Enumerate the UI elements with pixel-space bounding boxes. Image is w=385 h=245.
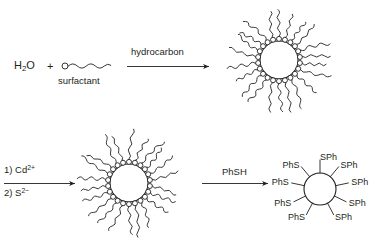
surfactant-tail	[286, 14, 293, 37]
surfactant-head-group	[282, 37, 287, 42]
surfactant-head-group	[127, 159, 132, 164]
surfactant-tail	[135, 206, 140, 237]
ligand-label: PhS	[282, 160, 299, 169]
surfactant-tail	[83, 192, 108, 200]
surfactant-tail	[269, 11, 273, 37]
ligand-bond	[292, 183, 305, 186]
ligand-label: PhS	[288, 213, 305, 222]
surfactant-head-group	[146, 172, 151, 177]
ligand-label: PhS	[272, 178, 289, 187]
ligand-label: SPh	[341, 160, 358, 169]
surfactant-tail	[153, 186, 176, 195]
reaction-scheme: H2O + surfactant hydrocarbon H2O 1) Cd2+…	[0, 0, 385, 245]
surfactant-tail	[142, 203, 150, 227]
ligand-bond	[334, 196, 346, 202]
ligand-label: PhS	[274, 199, 291, 208]
surfactant-head-group	[277, 36, 282, 41]
surfactant-tail	[242, 76, 261, 97]
surfactant-head-group	[106, 184, 111, 189]
surfactant-head-group	[132, 201, 137, 206]
surfactant-tail	[151, 193, 176, 203]
surfactant-tail	[248, 80, 266, 101]
surfactant-tail	[82, 156, 107, 173]
surfactant-head-group	[296, 49, 301, 54]
surfactant-tail	[147, 199, 168, 213]
ligand-bond	[336, 183, 349, 186]
ligand-bond	[330, 167, 338, 177]
surfactant-tail	[285, 83, 291, 112]
cd-s-arrow	[4, 181, 75, 186]
surfactant-head-group	[288, 75, 293, 80]
hydrocarbon-arrow	[127, 64, 209, 69]
surfactant-tail	[301, 70, 331, 77]
surfactant-head-group	[147, 178, 152, 183]
ligand-label: SPh	[320, 153, 337, 162]
surfactant-head-group	[256, 61, 261, 66]
surfactant-head-group	[106, 178, 111, 183]
surfactant-tail	[240, 32, 261, 44]
surfactant-head-group	[297, 61, 302, 66]
surfactant-tail	[153, 171, 178, 180]
surfactant-head-group	[282, 78, 287, 83]
surfactant-head-group	[138, 198, 143, 203]
surfactant-tail	[128, 129, 134, 159]
surfactant-head-group	[127, 202, 132, 207]
surfactant-head-group	[121, 201, 126, 206]
surfactant-tail	[112, 137, 123, 161]
surfactant-tail	[303, 63, 326, 66]
ligand-bond	[306, 203, 312, 214]
surfactant-head-group	[257, 49, 262, 54]
surfactant-tail	[301, 43, 330, 50]
surfactant-head-group	[146, 189, 151, 194]
surfactant-tail	[136, 139, 149, 160]
surfactant-head-group	[265, 75, 270, 80]
surfactant-head-group	[277, 79, 282, 84]
surfactant-head-group	[132, 160, 137, 165]
surfactant-tail	[277, 10, 280, 37]
surfactant-tail	[227, 62, 255, 68]
ligand-label: SPh	[351, 178, 368, 187]
surfactant-head-group	[288, 40, 293, 45]
surfactant-head-group	[138, 163, 143, 168]
surfactant-tail	[108, 206, 122, 231]
ligand-label: SPh	[349, 199, 366, 208]
surfactant-molecule	[62, 63, 111, 69]
surfactant-tail	[77, 177, 105, 181]
ligand-bond	[294, 196, 306, 202]
reverse-micelle-cds	[77, 129, 178, 237]
surfactant-head-group	[296, 66, 301, 71]
surfactant-head-group	[257, 66, 262, 71]
surfactant-tail	[236, 70, 257, 81]
surfactant-tail	[89, 199, 111, 216]
surfactant-tail	[87, 155, 111, 167]
ligand-bond	[301, 167, 309, 177]
surfactant-head-group	[147, 184, 152, 189]
surfactant-head-group	[107, 172, 112, 177]
surfactant-head-group	[256, 55, 261, 60]
surfactant-head-group	[271, 37, 276, 42]
surfactant-tail	[278, 84, 283, 112]
scheme-artwork	[0, 0, 385, 245]
surfactant-head-group	[107, 189, 112, 194]
surfactant-head-group	[297, 55, 302, 60]
surfactant-tail	[292, 80, 301, 109]
surfactant-head-group	[265, 40, 270, 45]
ligand-label: SPh	[335, 213, 352, 222]
surfactant-tail	[229, 47, 255, 56]
surfactant-head-group	[115, 198, 120, 203]
surfactant-tail	[151, 156, 173, 173]
surfactant-tail	[303, 55, 331, 58]
surfactant-tail	[81, 185, 105, 190]
surfactant-head-group	[121, 160, 126, 165]
surfactant-head-group	[271, 78, 276, 83]
phsh-arrow	[202, 181, 268, 186]
reverse-micelle-water	[227, 10, 331, 113]
ligand-bond	[328, 203, 334, 214]
surfactant-tail	[269, 83, 273, 112]
surfactant-tail	[297, 76, 316, 93]
surfactant-tail	[128, 207, 133, 235]
surfactant-head-group	[115, 163, 120, 168]
